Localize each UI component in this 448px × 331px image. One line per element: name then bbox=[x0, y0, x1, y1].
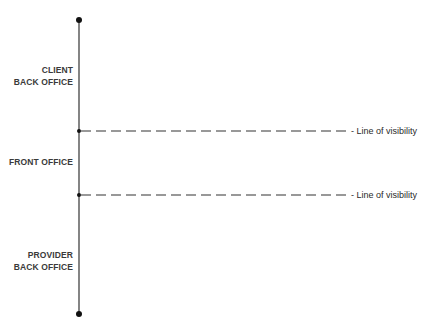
visibility-label-1: - Line of visibility bbox=[351, 125, 417, 137]
bottom-endpoint-dot bbox=[76, 311, 82, 317]
zone-label-line: CLIENT bbox=[0, 64, 73, 76]
zone-label-provider-back-office: PROVIDER BACK OFFICE bbox=[0, 249, 73, 273]
visibility-node-1 bbox=[77, 129, 81, 133]
zone-label-line: FRONT OFFICE bbox=[0, 156, 73, 168]
zone-label-line: BACK OFFICE bbox=[0, 76, 73, 88]
zone-label-line: BACK OFFICE bbox=[0, 261, 73, 273]
visibility-label-2: - Line of visibility bbox=[351, 189, 417, 201]
service-blueprint-diagram: CLIENT BACK OFFICE FRONT OFFICE PROVIDER… bbox=[0, 0, 448, 331]
zone-label-line: PROVIDER bbox=[0, 249, 73, 261]
visibility-node-2 bbox=[77, 193, 81, 197]
top-endpoint-dot bbox=[76, 17, 82, 23]
zone-label-front-office: FRONT OFFICE bbox=[0, 156, 73, 168]
zone-label-client-back-office: CLIENT BACK OFFICE bbox=[0, 64, 73, 88]
